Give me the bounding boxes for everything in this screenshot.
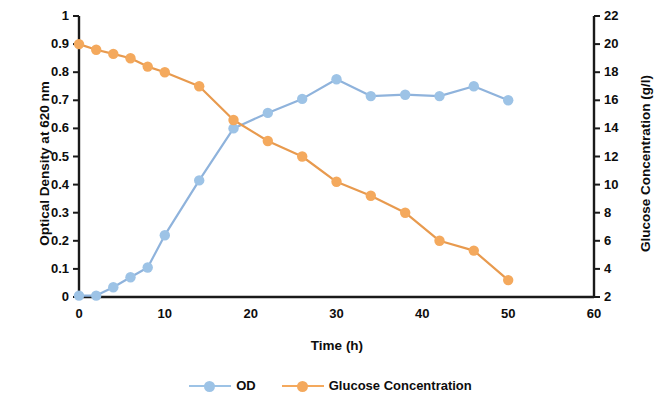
data-point [228,115,238,125]
y-tick-label-right: 16 [604,92,650,107]
x-tick-label: 50 [488,306,528,321]
data-point [434,236,444,246]
y-tick-label-right: 6 [604,233,650,248]
data-point [434,91,444,101]
data-point [297,151,307,161]
x-tick-label: 0 [59,306,99,321]
data-point [143,262,153,272]
x-tick-label: 20 [231,306,271,321]
legend-marker-icon [282,379,324,393]
y-tick-label-right: 12 [604,149,650,164]
y-tick-label-left: 1 [23,8,69,23]
x-tick-label: 60 [574,306,614,321]
data-point [160,67,170,77]
y-tick-label-left: 0.6 [23,120,69,135]
y-tick-label-left: 0 [23,289,69,304]
data-point [143,61,153,71]
y-tick-label-right: 8 [604,205,650,220]
series-line [79,79,508,295]
y-tick-label-right: 18 [604,64,650,79]
x-tick-label: 10 [145,306,185,321]
data-point [331,177,341,187]
data-point [108,282,118,292]
data-point [503,95,513,105]
legend-dot [204,381,215,392]
data-point [125,272,135,282]
x-axis-title: Time (h) [79,338,595,353]
chart-container: Optical Density at 620 nm Glucose Concen… [0,0,661,408]
data-point [194,81,204,91]
legend-label: Glucose Concentration [329,378,472,393]
data-point [400,90,410,100]
y-tick-label-right: 20 [604,36,650,51]
chart-legend: ODGlucose Concentration [0,378,661,393]
legend-dot [297,381,308,392]
data-point [125,53,135,63]
legend-item[interactable]: Glucose Concentration [282,378,472,393]
data-point [503,275,513,285]
data-point [469,81,479,91]
y-tick-label-left: 0.4 [23,177,69,192]
axis-lines [73,16,600,297]
y-tick-label-right: 14 [604,120,650,135]
y-tick-label-right: 4 [604,261,650,276]
series-layer [74,39,514,301]
data-point [160,230,170,240]
series-od [74,74,514,301]
data-point [74,39,84,49]
data-point [263,108,273,118]
data-point [263,136,273,146]
y-tick-label-right: 2 [604,289,650,304]
y-tick-label-left: 0.9 [23,36,69,51]
legend-marker-icon [189,379,231,393]
series-line [79,44,508,280]
y-tick-label-left: 0.2 [23,233,69,248]
data-point [366,191,376,201]
data-point [108,49,118,59]
y-tick-label-left: 0.3 [23,205,69,220]
data-point [331,74,341,84]
legend-label: OD [236,378,256,393]
y-tick-label-left: 0.7 [23,92,69,107]
legend-item[interactable]: OD [189,378,256,393]
x-tick-label: 30 [317,306,357,321]
y-tick-label-right: 10 [604,177,650,192]
data-point [91,290,101,300]
data-point [91,45,101,55]
data-point [194,175,204,185]
y-tick-label-left: 0.5 [23,149,69,164]
data-point [400,208,410,218]
x-tick-label: 40 [402,306,442,321]
data-point [297,94,307,104]
data-point [469,245,479,255]
series-glucose-concentration [74,39,514,285]
data-point [366,91,376,101]
data-point [74,290,84,300]
y-tick-label-right: 22 [604,8,650,23]
y-tick-label-left: 0.8 [23,64,69,79]
y-tick-label-left: 0.1 [23,261,69,276]
